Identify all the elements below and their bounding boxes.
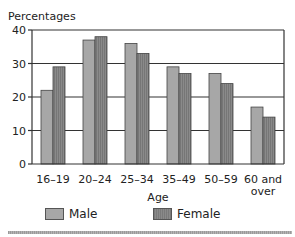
bars	[41, 37, 275, 164]
bar-female	[53, 67, 65, 164]
bar-male	[167, 67, 179, 164]
divider	[8, 231, 292, 234]
bar-female	[137, 53, 149, 164]
y-tick-label: 0	[19, 158, 26, 171]
bar-female	[263, 117, 275, 164]
x-tick-label: 25–34	[120, 173, 154, 186]
y-tick-label: 30	[12, 58, 26, 71]
bar-male	[41, 90, 53, 164]
legend-label-female: Female	[177, 207, 220, 221]
y-tick-label: 40	[12, 24, 26, 37]
bar-female	[221, 84, 233, 164]
legend-label-male: Male	[69, 207, 97, 221]
bar-female	[95, 37, 107, 164]
x-tick-label: 16–19	[36, 173, 70, 186]
gridlines	[32, 30, 284, 131]
y-axis-label: Percentages	[8, 10, 76, 23]
x-tick-label: 35–49	[162, 173, 196, 186]
bar-male	[125, 43, 137, 164]
legend: Male Female	[0, 207, 295, 227]
x-tick-label: 20–24	[78, 173, 112, 186]
legend-item-female: Female	[153, 207, 220, 221]
x-tick-label: 50–59	[204, 173, 238, 186]
y-tick-label: 20	[12, 91, 26, 104]
x-axis-label: Age	[147, 191, 169, 204]
bar-female	[179, 74, 191, 164]
y-tick-label: 10	[12, 125, 26, 138]
legend-item-male: Male	[45, 207, 97, 221]
female-swatch	[153, 208, 172, 220]
y-tick-labels: 010203040	[12, 24, 26, 171]
bar-chart: 010203040 16–1920–2425–3435–4950–5960 an…	[0, 0, 295, 205]
bar-male	[251, 107, 263, 164]
male-swatch	[45, 208, 64, 220]
bar-male	[83, 40, 95, 164]
bar-male	[209, 74, 221, 164]
x-tick-label: over	[251, 185, 276, 198]
